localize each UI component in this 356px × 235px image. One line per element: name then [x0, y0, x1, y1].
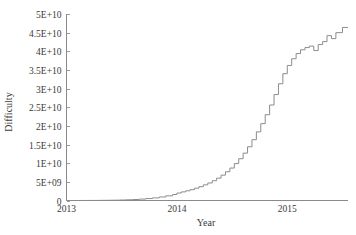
y-tick-label: 2E+10 — [36, 122, 62, 132]
x-tick-label: 2014 — [167, 204, 186, 214]
y-axis-title: Difficulty — [3, 92, 14, 131]
chart-figure: 05E+091E+101.5E+102E+102.5E+103E+103.5E+… — [0, 0, 356, 235]
x-tick-label: 2015 — [278, 204, 297, 214]
y-tick-label: 5E+10 — [36, 10, 62, 20]
x-axis-tick-labels: 201320142015 — [57, 204, 297, 214]
difficulty-series-line — [67, 27, 349, 200]
chart-canvas: 05E+091E+101.5E+102E+102.5E+103E+103.5E+… — [0, 0, 356, 235]
x-axis-title: Year — [197, 217, 216, 228]
y-tick-label: 4.5E+10 — [29, 29, 62, 39]
y-tick-label: 3E+10 — [36, 85, 62, 95]
y-axis-tick-labels: 05E+091E+101.5E+102E+102.5E+103E+103.5E+… — [29, 10, 62, 207]
y-tick-label: 5E+09 — [36, 178, 62, 188]
y-tick-label: 1.5E+10 — [29, 141, 62, 151]
y-tick-label: 2.5E+10 — [29, 103, 62, 113]
x-tick-label: 2013 — [57, 204, 76, 214]
y-tick-label: 1E+10 — [36, 159, 62, 169]
y-tick-label: 3.5E+10 — [29, 66, 62, 76]
y-tick-label: 4E+10 — [36, 47, 62, 57]
